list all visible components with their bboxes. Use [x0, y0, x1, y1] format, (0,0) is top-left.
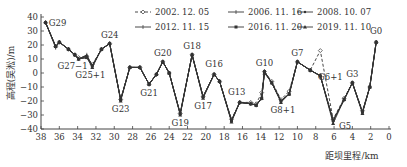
y-tick-label: 30 [27, 26, 38, 36]
legend-item: 2008. 10. 07 [297, 7, 371, 17]
x-axis-label: 距坝里程/km [325, 151, 378, 161]
x-tick-label: 26 [145, 132, 156, 142]
point-label: G0 [370, 26, 382, 36]
y-tick-label: −10 [20, 82, 38, 92]
point-label: G5 [339, 121, 351, 131]
point-label: G23 [112, 104, 130, 114]
x-tick-label: 34 [72, 132, 83, 142]
point-label: G19 [171, 118, 189, 128]
legend-label: 2006. 11. 16 [248, 7, 302, 17]
x-tick-label: 22 [182, 132, 193, 142]
x-tick-label: 0 [386, 132, 391, 142]
point-label: G17 [194, 101, 212, 111]
y-tick-label: 20 [27, 40, 38, 50]
y-tick-label: 0 [33, 68, 38, 78]
x-tick-label: 14 [255, 132, 266, 142]
legend-item: 2016. 11. 20 [228, 22, 302, 32]
point-label: G6+1 [318, 72, 343, 82]
x-tick-label: 2 [368, 132, 373, 142]
point-label: G8+1 [271, 105, 296, 115]
point-label: G20 [154, 48, 172, 58]
legend-item: 2006. 11. 16 [228, 7, 302, 17]
point-label: G16 [205, 59, 223, 69]
point-label: G29 [49, 18, 67, 28]
legend-label: 2016. 11. 20 [248, 22, 302, 32]
elevation-profile-chart: 403020100−10−20−30−403836343230282624222… [0, 0, 407, 167]
x-tick-label: 36 [54, 132, 65, 142]
x-tick-label: 8 [313, 132, 318, 142]
legend-label: 2002. 12. 05 [155, 7, 209, 17]
x-tick-label: 4 [350, 132, 355, 142]
x-tick-label: 32 [91, 132, 102, 142]
point-label: G18 [183, 41, 201, 51]
legend: 2002. 12. 052006. 11. 162008. 10. 072012… [135, 7, 371, 32]
legend-label: 2012. 11. 15 [155, 22, 209, 32]
x-tick-label: 16 [237, 132, 248, 142]
x-tick-label: 28 [127, 132, 138, 142]
x-tick-label: 38 [36, 132, 47, 142]
x-tick-label: 24 [164, 132, 175, 142]
y-tick-label: −20 [20, 96, 38, 106]
point-label: G7 [291, 48, 303, 58]
legend-label: 2019. 11. 10 [317, 22, 371, 32]
x-tick-label: 6 [331, 132, 336, 142]
legend-item: 2002. 12. 05 [135, 7, 209, 17]
y-tick-label: 40 [27, 12, 38, 22]
x-tick-label: 20 [200, 132, 211, 142]
point-label: G24 [101, 30, 119, 40]
x-tick-label: 10 [292, 132, 303, 142]
legend-item: 2019. 11. 10 [297, 22, 371, 32]
point-label: G21 [140, 88, 158, 98]
y-axis-label: 高程(吴淞)/m [5, 45, 16, 100]
y-tick-label: 10 [27, 54, 38, 64]
point-label: G3 [346, 69, 358, 79]
y-tick-label: −30 [20, 110, 38, 120]
x-tick-label: 18 [219, 132, 230, 142]
legend-item: 2012. 11. 15 [135, 22, 209, 32]
point-label: G25+1 [75, 70, 105, 80]
x-tick-label: 30 [109, 132, 120, 142]
legend-label: 2008. 10. 07 [317, 7, 371, 17]
x-tick-label: 12 [274, 132, 285, 142]
point-label: G13 [228, 87, 246, 97]
point-label: G10 [256, 58, 274, 68]
